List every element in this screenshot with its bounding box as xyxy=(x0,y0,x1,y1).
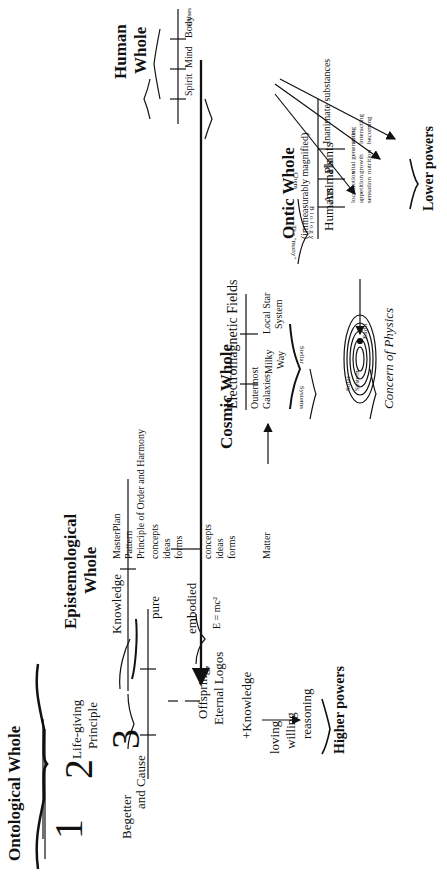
matter-label: Matter xyxy=(262,532,273,559)
human-mind: Mind xyxy=(184,46,195,68)
outermost-label: Outermost xyxy=(250,367,261,409)
concern-of-physics-label: Concern of Physics xyxy=(382,308,396,409)
knowledge-label: Knowledge xyxy=(110,574,124,634)
embodied-ideas: ideas xyxy=(215,538,226,559)
plus-knowledge-label: +Knowledge xyxy=(240,672,254,739)
life-giving-label: Life-giving xyxy=(70,700,84,759)
epistemological-title-1: Epistemological xyxy=(62,514,80,629)
offspring-label: Offspring, xyxy=(196,665,210,719)
animals-power-3: sensation xyxy=(366,177,373,203)
epistemological-title-2: Whole xyxy=(82,547,100,594)
and-cause-label: and Cause xyxy=(134,755,148,809)
embodied-forms: forms xyxy=(227,536,238,559)
solar-label: Solar xyxy=(345,376,352,391)
masterplan-label: MasterPlan xyxy=(112,513,123,559)
inanimate-power-3: becoming xyxy=(366,116,373,144)
higher-power-willing: willing xyxy=(284,712,298,749)
higher-power-reasoning: reasoning xyxy=(300,688,314,739)
way-label: Way xyxy=(276,351,287,369)
em-fields-label: Electromagnetic Fields xyxy=(226,280,241,409)
system-label: System xyxy=(274,300,285,329)
human-senses: Senses xyxy=(186,8,193,27)
lower-powers-label: Lower powers xyxy=(422,126,437,211)
pure-label: pure xyxy=(148,596,162,619)
principle-order-harmony-label: Principle of Order and Harmony xyxy=(136,429,147,559)
human-title-2: Whole xyxy=(132,27,150,74)
emc2-label: E = mc² xyxy=(212,597,223,629)
pure-concepts: concepts xyxy=(150,524,161,559)
human-spirit: Spirit xyxy=(184,74,195,96)
eternal-logos-label: Eternal Logos xyxy=(212,652,226,725)
diagram-canvas: Ontological Whole 1 2 3 Begetter and Cau… xyxy=(0,0,447,879)
plants-power-3: nutrition xyxy=(366,150,373,174)
pure-forms: forms xyxy=(174,536,185,559)
embodied-label: embodied xyxy=(185,583,199,634)
embodied-concepts: concepts xyxy=(203,524,214,559)
ontic-inanimate: Inanimate substances xyxy=(322,59,333,144)
ontological-whole-title: Ontological Whole xyxy=(6,726,24,861)
begetter-label: Begetter xyxy=(120,795,134,839)
pure-ideas: ideas xyxy=(162,538,173,559)
chem-label: Chem xyxy=(292,172,299,189)
earth-label: Earth xyxy=(362,324,369,339)
human-title-1: Human xyxy=(112,24,130,79)
principle-label: Principle xyxy=(86,702,100,749)
number-1: 1 xyxy=(48,819,90,839)
the-many-label: The "many" xyxy=(290,225,297,259)
pattern-label: Pattern xyxy=(124,531,135,559)
number-3: 3 xyxy=(105,729,147,749)
higher-powers-label: Higher powers xyxy=(333,666,348,754)
milky-label: Milky xyxy=(264,350,275,374)
galaxies-label: Galaxies xyxy=(262,374,273,409)
ontic-plants: Plants xyxy=(322,142,336,174)
number-2: 2 xyxy=(58,759,100,779)
systems-label: Systems xyxy=(298,386,305,409)
biology-label: B i o l o g y xyxy=(308,206,315,239)
higher-power-loving: loving xyxy=(268,721,282,754)
stellar-label: Stellar xyxy=(298,346,305,364)
solar-system-label: System xyxy=(354,370,361,391)
local-star-label: Local Star xyxy=(262,293,273,334)
